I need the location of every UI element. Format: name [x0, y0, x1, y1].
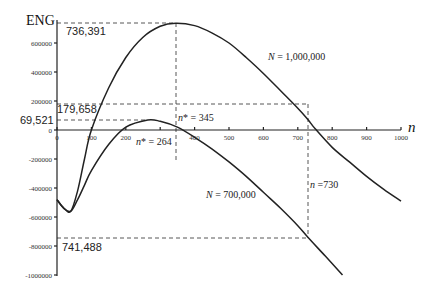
y-tick-label: -400000: [29, 185, 53, 193]
series-label-n-700000: N = 700,000: [205, 189, 256, 200]
annotation-736391: 736,391: [66, 25, 106, 37]
y-tick-label: -600000: [29, 214, 53, 222]
x-tick-label: 900: [361, 134, 372, 142]
x-tick-label: 700: [293, 134, 304, 142]
x-tick-label: 0: [55, 134, 59, 142]
series-label-n-1000000: N = 1,000,000: [267, 51, 325, 62]
annotation-69521: 69,521: [20, 114, 54, 126]
y-tick-label: -1000000: [25, 272, 52, 280]
annotation-n-730: n =730: [310, 179, 338, 190]
y-axis-title: ENG: [26, 13, 55, 28]
annotation-nstar-264: n* = 264: [136, 136, 172, 147]
y-tick-label: 400000: [31, 69, 53, 77]
curve-n-1000000: [57, 23, 401, 212]
y-tick-label: 600000: [31, 40, 53, 48]
annotation-179658: 179,658: [57, 103, 97, 115]
x-tick-label: 600: [258, 134, 269, 142]
x-tick-label: 200: [121, 134, 132, 142]
y-tick-label: -200000: [29, 156, 53, 164]
x-tick-label: 500: [224, 134, 235, 142]
annotation-741488: 741,488: [62, 241, 102, 253]
x-tick-label: 800: [327, 134, 338, 142]
y-tick-label: 0: [49, 127, 53, 135]
eng-vs-n-line-chart: 6000004000002000000-200000-400000-600000…: [0, 0, 435, 297]
y-tick-label: 200000: [31, 98, 53, 106]
annotation-nstar-345: n* = 345: [178, 112, 214, 123]
y-tick-label: -800000: [29, 243, 53, 251]
y-ticks: 6000004000002000000-200000-400000-600000…: [25, 40, 57, 280]
x-ticks: 01002004005006007008009001000: [55, 127, 408, 142]
x-axis-title: n: [408, 119, 416, 135]
x-tick-label: 1000: [394, 134, 409, 142]
